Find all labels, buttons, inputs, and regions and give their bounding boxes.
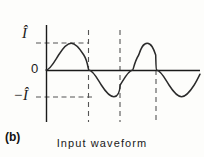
y-axis-label-negative-amplitude: −Î (13, 88, 28, 103)
waveform-plot (0, 0, 204, 157)
y-axis-label-zero: 0 (31, 62, 38, 75)
figure-caption: Input waveform (0, 137, 204, 149)
waveform-figure: Î 0 −Î (b) Input waveform (0, 0, 204, 157)
y-axis-label-positive-amplitude: Î (22, 26, 27, 41)
